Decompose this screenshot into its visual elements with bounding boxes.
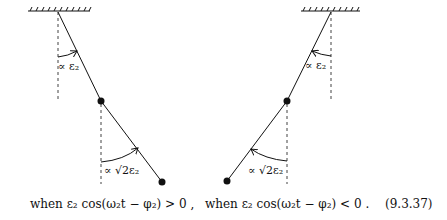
left-upper-angle-label: ∝ ε₂ xyxy=(58,61,79,72)
left-lower-angle-arrow xyxy=(101,148,138,162)
left-upper-angle-arrow xyxy=(58,51,77,57)
right-pendulum xyxy=(224,7,361,185)
equation-number: (9.3.37) xyxy=(385,198,433,210)
double-pendulum-figure xyxy=(0,0,447,220)
right-lower-angle-arrow xyxy=(251,149,287,161)
right-upper-rod xyxy=(287,12,331,101)
right-ceiling-hatch xyxy=(301,7,360,11)
left-caption: when ε₂ cos(ω₂t − φ₂) > 0 , xyxy=(30,198,194,210)
right-caption: when ε₂ cos(ω₂t − φ₂) < 0 . xyxy=(205,198,369,210)
right-bob-2 xyxy=(224,178,231,185)
right-lower-angle-label: ∝ √2ε₂ xyxy=(248,165,283,176)
right-upper-angle-arrow xyxy=(312,51,331,56)
left-upper-rod xyxy=(58,12,101,101)
left-pendulum xyxy=(28,7,166,186)
left-bob-2 xyxy=(159,179,166,186)
left-lower-angle-label: ∝ √2ε₂ xyxy=(104,165,139,176)
left-ceiling-hatch xyxy=(28,7,91,11)
right-upper-angle-label: ∝ ε₂ xyxy=(305,60,326,71)
